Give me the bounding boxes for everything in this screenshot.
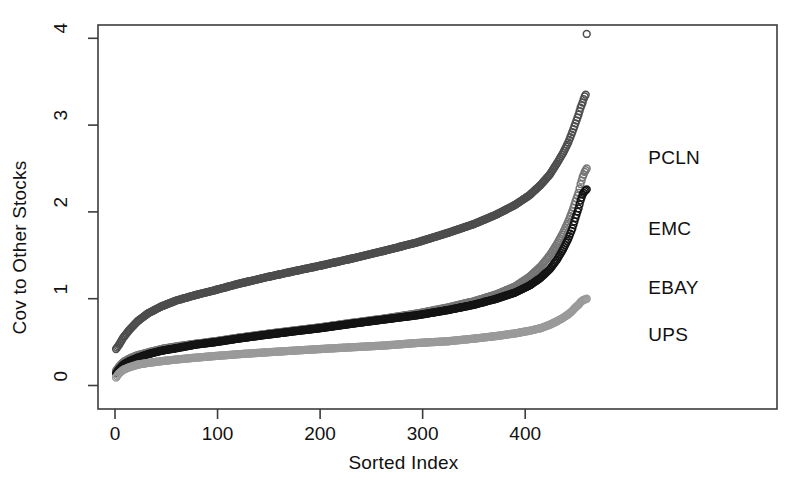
y-axis-title: Cov to Other Stocks bbox=[0, 0, 40, 495]
series-layer bbox=[113, 31, 590, 382]
y-tick-label: 4 bbox=[50, 23, 72, 53]
y-tick-label: 0 bbox=[50, 371, 72, 401]
plot-canvas bbox=[0, 0, 807, 495]
series-label-ups: UPS bbox=[648, 324, 688, 346]
y-tick-label: 2 bbox=[50, 197, 72, 227]
series-label-emc: EMC bbox=[648, 218, 691, 240]
x-tick-label: 0 bbox=[85, 423, 145, 445]
series-pcln bbox=[113, 31, 590, 353]
x-tick-label: 100 bbox=[188, 423, 248, 445]
series-label-ebay: EBAY bbox=[648, 277, 698, 299]
y-tick-label: 1 bbox=[50, 284, 72, 314]
x-axis-title: Sorted Index bbox=[0, 452, 807, 474]
x-tick-label: 300 bbox=[393, 423, 453, 445]
series-ups bbox=[113, 295, 590, 381]
x-tick-label: 200 bbox=[290, 423, 350, 445]
x-tick-label: 400 bbox=[495, 423, 555, 445]
plot-frame bbox=[98, 25, 777, 409]
chart-figure: Cov to Other Stocks Sorted Index 0123401… bbox=[0, 0, 807, 495]
y-tick-label: 3 bbox=[50, 110, 72, 140]
series-label-pcln: PCLN bbox=[648, 147, 700, 169]
